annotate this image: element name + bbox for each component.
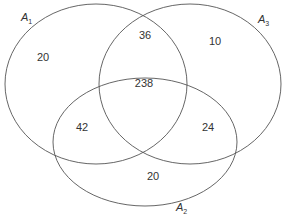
region-a1-only: 20 bbox=[37, 51, 49, 63]
region-a2-a3: 24 bbox=[202, 121, 214, 133]
set-a1-label: A1 bbox=[20, 11, 32, 25]
set-a2-label: A2 bbox=[175, 201, 187, 214]
set-a3-circle bbox=[99, 4, 281, 164]
region-a1-a3: 36 bbox=[139, 29, 151, 41]
set-a2-circle bbox=[53, 78, 237, 206]
region-a3-only: 10 bbox=[209, 35, 221, 47]
venn-diagram: A1 A3 A2 20 36 10 238 42 24 20 bbox=[0, 0, 286, 214]
region-a1-a2-a3: 238 bbox=[135, 77, 153, 89]
region-a2-only: 20 bbox=[147, 170, 159, 182]
region-a1-a2: 42 bbox=[76, 121, 88, 133]
set-a1-circle bbox=[5, 4, 187, 164]
set-a3-label: A3 bbox=[257, 13, 269, 27]
